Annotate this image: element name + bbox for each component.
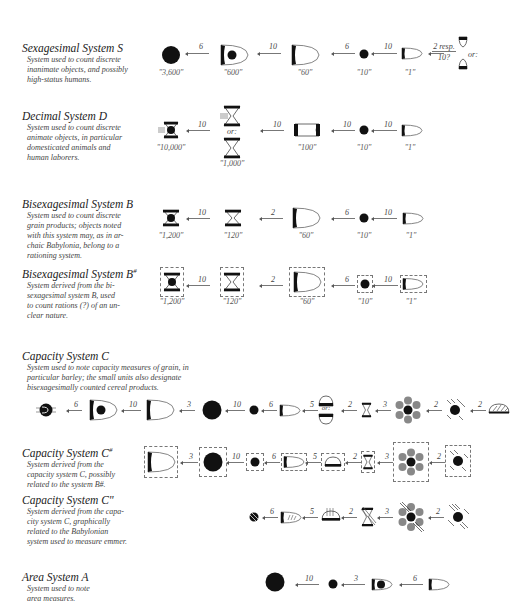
sign-value: "60": [299, 231, 314, 240]
arrow-icon: [307, 462, 321, 463]
circle-with-diagonal-strokes-icon: [444, 398, 466, 422]
sign-value: "1": [405, 143, 416, 152]
rosette-of-circles-icon: [394, 396, 422, 424]
arrow-icon: [472, 410, 486, 411]
small-barrel-icon: [293, 123, 321, 137]
factor-label: 3: [347, 574, 365, 583]
system-description: System derived from the bi- sexagesimal …: [27, 281, 137, 321]
factor-label: 10: [264, 42, 282, 51]
arrow-icon: [430, 517, 444, 518]
sign-value: "600": [224, 68, 243, 77]
sign-value: "10": [357, 68, 372, 77]
system-d-caption: Decimal System D System used to count di…: [22, 110, 122, 163]
large-circle-icon: [201, 399, 223, 421]
system-description: System used to note area measures.: [27, 584, 90, 603]
arrow-icon: [343, 517, 357, 518]
factor-label: 6: [266, 400, 276, 409]
factor-label: 3: [382, 507, 392, 516]
sign-value: "1": [405, 68, 416, 77]
arrow-icon: [401, 584, 423, 585]
small-circle-icon: [327, 578, 339, 590]
arrow-icon: [182, 462, 198, 463]
framed-small-circle-icon: [247, 454, 263, 470]
fraction-bottom: 10?: [436, 53, 452, 62]
factor-label: 10: [229, 452, 243, 461]
arrow-icon: [304, 517, 318, 518]
factor-label: 3: [382, 452, 392, 461]
or-label: or:: [319, 404, 333, 412]
factor-label: 2: [346, 507, 356, 516]
arrow-icon: [181, 410, 195, 411]
factor-label: 6: [338, 275, 356, 284]
system-c-sharp-caption: Capacity System C# System derived from t…: [22, 444, 115, 490]
factor-label: 10: [268, 120, 286, 129]
factor-label: 10: [300, 574, 318, 583]
factor-label: 2: [433, 507, 443, 516]
arrow-icon: [374, 285, 398, 286]
factor-label: 2: [350, 452, 360, 461]
factor-label: 6: [71, 400, 81, 409]
system-title: Capacity System C: [22, 350, 189, 363]
factor-label: 10: [193, 120, 211, 129]
hatched-dome-icon: [488, 403, 510, 415]
arrow-icon: [343, 584, 365, 585]
framed-small-cone-icon: [282, 454, 306, 470]
sign-value: "3,600": [159, 68, 184, 77]
sign-value: "10": [357, 143, 372, 152]
system-title: Capacity System C: [22, 447, 109, 459]
system-title: Capacity System C": [22, 494, 127, 507]
framed-large-circle-icon: [200, 448, 226, 476]
sign-value: "1,000": [220, 159, 245, 168]
factor-label: 10: [193, 275, 211, 284]
hatched-rosette-icon: [396, 502, 426, 532]
factor-label: 2: [345, 400, 355, 409]
system-title: Sexagesimal System S: [22, 42, 128, 55]
framed-large-cone-icon: [290, 268, 324, 296]
sign-value: "100": [298, 143, 317, 152]
arrow-icon: [228, 462, 244, 463]
system-c-double-prime-caption: Capacity System C" System derived from t…: [22, 494, 127, 547]
factor-label: 5: [310, 452, 320, 461]
hourglass-with-circle-icon: [162, 209, 180, 227]
arrow-icon: [373, 218, 397, 219]
framed-rosette-of-circles-icon: [394, 443, 428, 481]
framed-hourglass-with-circle-icon: [161, 268, 183, 296]
factor-label: 10: [378, 42, 398, 51]
factor-label: 2: [266, 275, 280, 284]
factor-label: 6: [192, 42, 210, 51]
cone-with-circle-icon: [371, 578, 393, 591]
small-circle-icon: [358, 124, 370, 136]
small-circle-icon: [248, 404, 260, 416]
large-cone-icon: [290, 44, 320, 66]
sign-value: "1,200": [160, 297, 185, 306]
small-cone-icon: [279, 404, 301, 417]
framed-small-circle-icon: [358, 276, 372, 292]
title-superscript: #: [133, 267, 137, 275]
sign-value: "120": [224, 231, 243, 240]
arrow-icon: [373, 53, 397, 54]
system-a-caption: Area System A System used to note area m…: [22, 571, 90, 603]
factor-label: 3: [184, 400, 194, 409]
arrow-icon: [431, 462, 445, 463]
sign-value: "1": [406, 297, 417, 306]
arrow-icon: [123, 410, 141, 411]
small-hourglass-icon: [361, 402, 372, 418]
sign-value: "1,200": [159, 231, 184, 240]
system-s-caption: Sexagesimal System S System used to coun…: [22, 42, 128, 85]
small-circle-icon: [358, 48, 370, 60]
factor-label: 6: [267, 507, 277, 516]
arrow-icon: [263, 410, 277, 411]
small-cone-icon: [401, 47, 423, 60]
hatched-hourglass-icon: [360, 506, 376, 528]
large-circle-icon: [264, 571, 286, 593]
arrow-icon: [373, 130, 397, 131]
circle-with-cone-and-strokes-icon: [36, 402, 56, 418]
hatched-small-circle-icon: [248, 511, 260, 523]
arrow-icon: [297, 584, 319, 585]
arrow-icon: [68, 410, 82, 411]
factor-label: 10: [378, 275, 398, 284]
hourglass-icon: [224, 209, 242, 227]
factor-label: 5: [307, 400, 317, 409]
sign-value: "1": [406, 231, 417, 240]
small-circle-icon: [358, 212, 370, 224]
